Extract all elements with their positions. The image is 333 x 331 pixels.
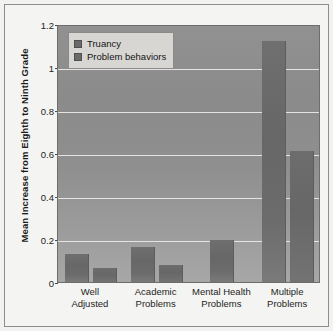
y-tick-label: 0.8 (26, 106, 54, 117)
legend-label: Problem behaviors (87, 52, 166, 62)
y-tick-label: 1.2 (26, 20, 54, 31)
y-tick-label: 0.2 (26, 235, 54, 246)
bar-truancy (65, 254, 89, 282)
legend-swatch-icon (74, 40, 82, 48)
x-tick-label-line: Problems (192, 298, 251, 310)
x-tick-label: MultipleProblems (267, 286, 307, 309)
x-tick-label-line: Well (71, 286, 108, 298)
x-tick-label-line: Adjusted (71, 298, 108, 310)
y-axis-tick-labels: 00.20.40.60.811.2 (26, 0, 54, 331)
bar-truancy (210, 240, 234, 282)
bar-truancy (131, 247, 155, 282)
x-tick-label-line: Problems (135, 298, 177, 310)
x-tick-label-line: Mental Health (192, 286, 251, 298)
legend-item-truancy: Truancy (74, 38, 166, 50)
bar-problem-behaviors (159, 265, 183, 282)
chart-legend: Truancy Problem behaviors (68, 32, 174, 69)
legend-swatch-icon (74, 53, 82, 61)
x-tick-label-line: Problems (267, 298, 307, 310)
legend-label: Truancy (87, 39, 121, 49)
chart-figure: Mean Increase from Eighth to Ninth Grade… (0, 0, 333, 331)
x-tick-label: WellAdjusted (71, 286, 108, 309)
bar-problem-behaviors (290, 151, 314, 282)
bar-truancy (262, 41, 286, 282)
x-tick-label-line: Academic (135, 286, 177, 298)
x-axis-tick-labels: WellAdjustedAcademicProblemsMental Healt… (57, 286, 320, 320)
plot-area: Truancy Problem behaviors (57, 25, 320, 283)
x-tick-label: AcademicProblems (135, 286, 177, 309)
legend-item-problem-behaviors: Problem behaviors (74, 51, 166, 63)
bar-problem-behaviors (93, 268, 117, 282)
y-tick-label: 0.4 (26, 192, 54, 203)
y-tick-label: 0 (26, 278, 54, 289)
y-tick-label: 0.6 (26, 149, 54, 160)
x-tick-label: Mental HealthProblems (192, 286, 251, 309)
x-tick-label-line: Multiple (267, 286, 307, 298)
y-tick-label: 1 (26, 63, 54, 74)
